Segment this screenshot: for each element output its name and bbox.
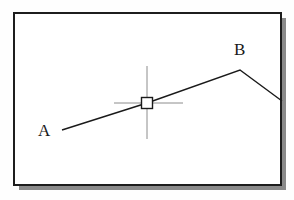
drawing-canvas[interactable]: A B <box>0 0 294 200</box>
vertex-label-a: A <box>38 122 50 139</box>
pickbox[interactable] <box>142 98 153 109</box>
vertex-label-b: B <box>234 41 245 58</box>
cad-scene <box>0 0 294 200</box>
